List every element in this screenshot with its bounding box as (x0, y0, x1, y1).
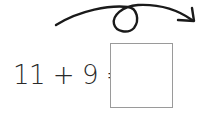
answer-box[interactable] (110, 43, 173, 108)
loop-arrow-icon (0, 0, 203, 40)
